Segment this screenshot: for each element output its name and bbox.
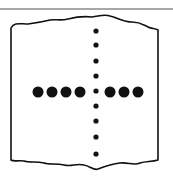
horizontal-dot-row [33, 87, 144, 98]
vertical-dot-column [93, 28, 98, 156]
dot-cross-diagram [0, 0, 173, 178]
